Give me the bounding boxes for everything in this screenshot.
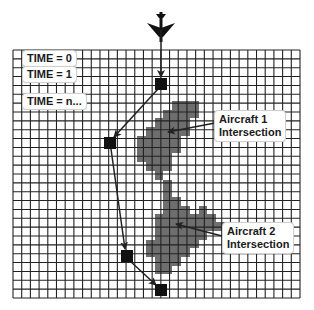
aircraft-1-label: Aircraft 1 Intersection (214, 110, 286, 142)
waypoint-marker (155, 78, 167, 90)
aircraft-1-label-line2: Intersection (219, 126, 281, 139)
path-segment (111, 149, 125, 249)
waypoint-marker (121, 250, 133, 262)
aircraft-2-label-line2: Intersection (227, 238, 289, 251)
aircraft-1-label-line1: Aircraft 1 (219, 113, 281, 126)
waypoint-marker (155, 284, 167, 296)
time-label-n: TIME = n... (22, 93, 87, 110)
time-label-0: TIME = 0 (22, 50, 77, 67)
time-label-1: TIME = 1 (22, 66, 77, 83)
aircraft-2-label-line1: Aircraft 2 (227, 225, 289, 238)
aircraft-1-intersection-region (137, 101, 199, 180)
aircraft-2-label: Aircraft 2 Intersection (222, 222, 294, 254)
waypoint-marker (104, 137, 116, 149)
diagram-canvas (0, 0, 314, 310)
